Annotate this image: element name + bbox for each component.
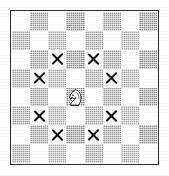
- board-square-g2[interactable]: [121, 125, 139, 144]
- board-square-h8[interactable]: [139, 12, 157, 31]
- board-square-d3[interactable]: [66, 106, 84, 125]
- board-square-h7[interactable]: [139, 31, 157, 50]
- board-square-g1[interactable]: [121, 144, 139, 163]
- move-marker-x-b5: [32, 71, 47, 86]
- board-square-h3[interactable]: [139, 106, 157, 125]
- board-square-e1[interactable]: [85, 144, 103, 163]
- knight-icon[interactable]: [67, 88, 84, 106]
- board-square-f6[interactable]: [103, 50, 121, 69]
- board-square-c5[interactable]: [48, 69, 66, 88]
- board-square-d4[interactable]: [66, 88, 84, 107]
- board-square-f3[interactable]: [103, 106, 121, 125]
- board-square-a6[interactable]: [12, 50, 30, 69]
- board-square-d2[interactable]: [66, 125, 84, 144]
- board-square-b1[interactable]: [30, 144, 48, 163]
- chessboard-grid[interactable]: [12, 12, 157, 163]
- move-marker-x-f3: [104, 108, 119, 123]
- board-square-c7[interactable]: [48, 31, 66, 50]
- board-square-g3[interactable]: [121, 106, 139, 125]
- board-square-e6[interactable]: [85, 50, 103, 69]
- board-square-c2[interactable]: [48, 125, 66, 144]
- board-square-h2[interactable]: [139, 125, 157, 144]
- board-square-g5[interactable]: [121, 69, 139, 88]
- board-square-e3[interactable]: [85, 106, 103, 125]
- board-square-b4[interactable]: [30, 88, 48, 107]
- board-square-d6[interactable]: [66, 50, 84, 69]
- board-square-f2[interactable]: [103, 125, 121, 144]
- board-square-d8[interactable]: [66, 12, 84, 31]
- board-square-g4[interactable]: [121, 88, 139, 107]
- board-square-c1[interactable]: [48, 144, 66, 163]
- board-square-c4[interactable]: [48, 88, 66, 107]
- board-square-g7[interactable]: [121, 31, 139, 50]
- board-square-f5[interactable]: [103, 69, 121, 88]
- move-marker-x-e6: [86, 52, 101, 67]
- chess-diagram-root: White knight on d4 with its eight legal …: [0, 0, 169, 176]
- board-square-e8[interactable]: [85, 12, 103, 31]
- board-square-f7[interactable]: [103, 31, 121, 50]
- board-square-e4[interactable]: [85, 88, 103, 107]
- board-square-h6[interactable]: [139, 50, 157, 69]
- board-square-a7[interactable]: [12, 31, 30, 50]
- board-square-g6[interactable]: [121, 50, 139, 69]
- board-square-h1[interactable]: [139, 144, 157, 163]
- board-square-e5[interactable]: [85, 69, 103, 88]
- chessboard-frame: [10, 10, 159, 165]
- board-square-d7[interactable]: [66, 31, 84, 50]
- board-square-e7[interactable]: [85, 31, 103, 50]
- board-square-g8[interactable]: [121, 12, 139, 31]
- board-square-b6[interactable]: [30, 50, 48, 69]
- board-square-e2[interactable]: [85, 125, 103, 144]
- move-marker-x-e2: [86, 127, 101, 142]
- diagram-caption: White knight on d4 with its eight legal …: [0, 0, 1, 1]
- board-square-f4[interactable]: [103, 88, 121, 107]
- board-square-c8[interactable]: [48, 12, 66, 31]
- board-square-b5[interactable]: [30, 69, 48, 88]
- board-square-a2[interactable]: [12, 125, 30, 144]
- board-square-h4[interactable]: [139, 88, 157, 107]
- board-square-b2[interactable]: [30, 125, 48, 144]
- board-square-c6[interactable]: [48, 50, 66, 69]
- board-square-a5[interactable]: [12, 69, 30, 88]
- board-square-a4[interactable]: [12, 88, 30, 107]
- board-square-a1[interactable]: [12, 144, 30, 163]
- move-marker-x-c6: [50, 52, 65, 67]
- board-square-d5[interactable]: [66, 69, 84, 88]
- move-marker-x-f5: [104, 71, 119, 86]
- board-square-h5[interactable]: [139, 69, 157, 88]
- board-square-f8[interactable]: [103, 12, 121, 31]
- board-square-d1[interactable]: [66, 144, 84, 163]
- move-marker-x-c2: [50, 127, 65, 142]
- board-square-b3[interactable]: [30, 106, 48, 125]
- board-square-b7[interactable]: [30, 31, 48, 50]
- move-marker-x-b3: [32, 108, 47, 123]
- board-square-a3[interactable]: [12, 106, 30, 125]
- board-square-a8[interactable]: [12, 12, 30, 31]
- board-square-c3[interactable]: [48, 106, 66, 125]
- board-square-b8[interactable]: [30, 12, 48, 31]
- board-square-f1[interactable]: [103, 144, 121, 163]
